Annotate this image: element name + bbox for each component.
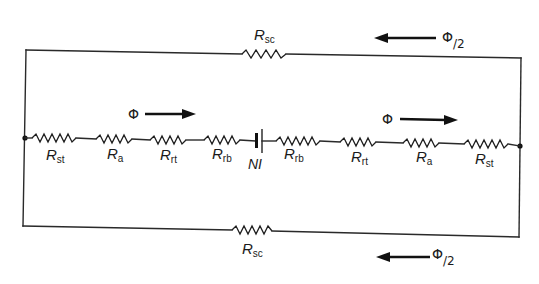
top-branch: Rsc Φ/2	[26, 26, 521, 58]
arrow-right-icon	[182, 109, 196, 119]
left-rrt-label: Rrt	[160, 146, 177, 165]
left-rrb-resistor	[204, 136, 240, 144]
middle-branch: NI Rst Ra Rrt Rrb Rrb Rrt	[22, 106, 522, 172]
arrow-left-icon	[376, 252, 390, 262]
top-rsc-resistor	[242, 50, 286, 58]
right-ra-label: Ra	[416, 148, 433, 167]
magnetic-circuit-diagram: Rsc Φ/2 NI	[0, 0, 539, 284]
left-rst-label: Rst	[46, 146, 65, 165]
bottom-rsc-resistor	[232, 226, 272, 234]
top-wire-left	[26, 50, 242, 54]
bottom-wire-right	[272, 231, 519, 237]
right-rrb-label: Rrb	[284, 145, 304, 164]
bottom-branch: Rsc Φ/2	[23, 226, 519, 268]
middle-right-flux-label: Φ	[382, 111, 393, 127]
arrow-left-icon	[374, 33, 388, 43]
top-flux-arrow: Φ/2	[374, 29, 465, 51]
right-rst-label: Rst	[475, 150, 494, 169]
bottom-flux-arrow: Φ/2	[376, 246, 455, 268]
right-rrb-resistor	[276, 137, 320, 145]
right-ra-resistor	[403, 139, 439, 147]
middle-right-flux-arrow: Φ	[382, 111, 458, 127]
left-ra-resistor	[96, 135, 132, 143]
bottom-flux-label: Φ/2	[432, 246, 455, 268]
mmf-source-ni: NI	[248, 129, 262, 172]
right-rst-resistor	[464, 140, 508, 148]
left-rst-resistor	[32, 134, 76, 142]
right-rrt-label: Rrt	[351, 148, 368, 167]
arrow-right-icon	[444, 115, 458, 125]
left-rrt-resistor	[150, 136, 186, 144]
top-rsc-label: Rsc	[254, 26, 275, 45]
middle-left-flux-label: Φ	[128, 106, 139, 122]
left-ra-label: Ra	[107, 145, 124, 164]
right-rrt-resistor	[340, 138, 376, 146]
left-rrb-label: Rrb	[212, 145, 232, 164]
bottom-rsc-label: Rsc	[242, 240, 263, 259]
bottom-wire-left	[23, 226, 232, 230]
top-wire-right	[286, 54, 521, 58]
top-flux-label: Φ/2	[442, 29, 465, 51]
ni-label: NI	[248, 156, 262, 172]
battery-short-plate-icon	[255, 133, 258, 148]
middle-left-flux-arrow: Φ	[128, 106, 196, 122]
